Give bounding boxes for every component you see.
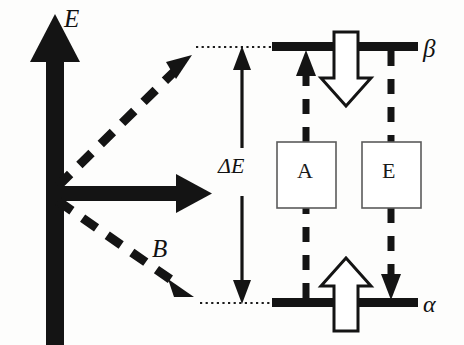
upper-level-label: β bbox=[423, 36, 435, 61]
energy-axis-label: E bbox=[64, 6, 79, 31]
process-box-emission-label: E bbox=[382, 160, 395, 182]
field-axis-arrow bbox=[55, 174, 212, 213]
energy-gap-label: ΔE bbox=[218, 155, 244, 177]
alpha-population-hollow-arrow bbox=[321, 258, 371, 331]
field-axis-label: B bbox=[152, 236, 167, 261]
process-box-absorption-label: A bbox=[297, 160, 313, 182]
lower-branch-dashed-arrow bbox=[58, 201, 194, 297]
lower-level-label: α bbox=[423, 292, 436, 316]
energy-axis-arrow bbox=[30, 14, 80, 345]
figure-canvas: E B ΔE β α A E bbox=[0, 0, 464, 345]
upper-branch-dashed-arrow bbox=[58, 55, 192, 186]
